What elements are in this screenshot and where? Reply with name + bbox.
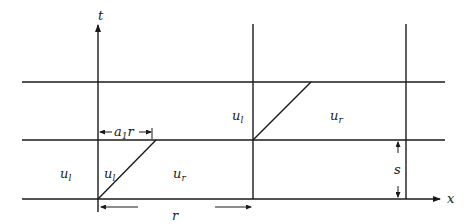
region-label-left-outer: ul <box>60 166 71 183</box>
x-axis-label: x <box>447 191 455 206</box>
region-label-mid-l: ul <box>232 108 243 125</box>
a1r-label: a1r <box>114 124 135 141</box>
r-label: r <box>172 208 179 223</box>
t-axis-label: t <box>98 8 104 23</box>
s-label: s <box>394 162 401 177</box>
region-label-left-wedge-r: ur <box>173 166 186 183</box>
characteristic-line-upper <box>253 82 311 140</box>
region-label-mid-r: ur <box>330 108 343 125</box>
riemann-wave-diagram: t x ul ul ur ul ur a1r r s <box>0 0 475 224</box>
region-label-left-wedge-l: ul <box>104 166 115 183</box>
